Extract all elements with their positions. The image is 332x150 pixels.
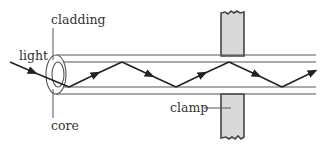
optical-fiber-diagram: cladding light core clamp (0, 0, 332, 150)
clamp-bottom (221, 94, 244, 139)
cladding-label: cladding (51, 12, 106, 27)
clamp-top (221, 11, 244, 56)
core-label: core (51, 118, 79, 133)
clamp-label: clamp (170, 100, 208, 115)
cladding-end-ellipse (46, 55, 66, 94)
light-label: light (19, 48, 48, 63)
